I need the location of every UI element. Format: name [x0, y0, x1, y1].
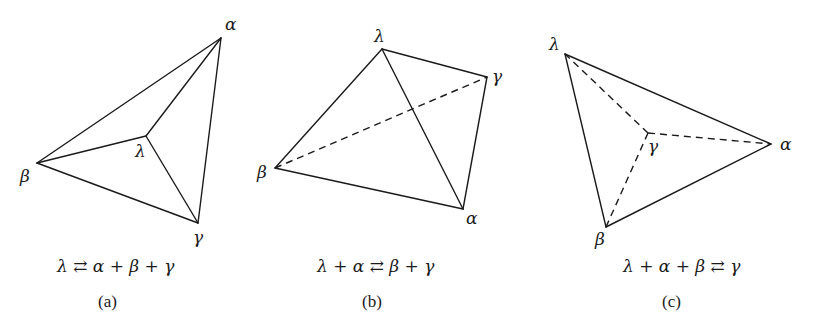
- hidden-edge-gamma-alpha: [648, 133, 771, 144]
- edge-lambda-gamma: [382, 49, 487, 77]
- hidden-edge-beta-gamma: [275, 77, 487, 168]
- edge-gamma-alpha: [463, 77, 487, 209]
- panel-c-edges: [565, 54, 771, 227]
- reaction-equation-b: λ + α ⇄ β + γ: [316, 256, 435, 276]
- vertex-label-lambda: λ: [373, 26, 385, 46]
- edge-lambda-beta: [275, 49, 382, 168]
- vertex-label-alpha: α: [466, 208, 478, 228]
- vertex-label-beta: β: [256, 162, 267, 182]
- edge-beta-alpha: [275, 168, 463, 209]
- vertex-label-gamma: γ: [492, 66, 503, 86]
- edge-lambda-alpha: [382, 49, 463, 209]
- tetrahedron-reaction-figure: α β λ γ λ ⇄ α + β + γ (a) λ γ β α λ + α …: [0, 0, 813, 324]
- hidden-edge-gamma-lambda: [565, 54, 648, 133]
- reaction-equation-a: λ ⇄ α + β + γ: [56, 256, 175, 276]
- vertex-label-gamma: γ: [648, 136, 659, 156]
- panel-a-edges: [37, 38, 221, 223]
- vertex-label-alpha: α: [780, 134, 792, 154]
- edge-beta-gamma: [37, 163, 198, 223]
- vertex-label-lambda: λ: [548, 34, 560, 54]
- edge-alpha-gamma: [198, 38, 221, 223]
- hidden-edge-gamma-beta: [606, 133, 648, 227]
- vertex-label-alpha: α: [225, 14, 237, 34]
- edge-beta-alpha: [606, 144, 771, 227]
- vertex-label-beta: β: [19, 166, 30, 186]
- vertex-label-gamma: γ: [193, 227, 204, 247]
- edge-lambda-alpha: [565, 54, 771, 144]
- panel-b-edges: [275, 49, 487, 209]
- caption-a: (a): [98, 292, 117, 311]
- caption-c: (c): [662, 292, 681, 311]
- panel-b: λ γ β α λ + α ⇄ β + γ (b): [256, 26, 503, 311]
- caption-b: (b): [362, 292, 382, 311]
- vertex-label-beta: β: [594, 229, 605, 249]
- edge-alpha-beta: [37, 38, 221, 163]
- edge-lambda-beta: [37, 136, 146, 163]
- edge-lambda-beta: [565, 54, 606, 227]
- edge-lambda-gamma: [146, 136, 198, 223]
- edge-lambda-alpha: [146, 38, 221, 136]
- panel-a: α β λ γ λ ⇄ α + β + γ (a): [19, 14, 237, 311]
- panel-c: λ α β γ λ + α + β ⇄ γ (c): [548, 34, 792, 311]
- vertex-label-lambda: λ: [134, 141, 146, 161]
- reaction-equation-c: λ + α + β ⇄ γ: [622, 256, 741, 276]
